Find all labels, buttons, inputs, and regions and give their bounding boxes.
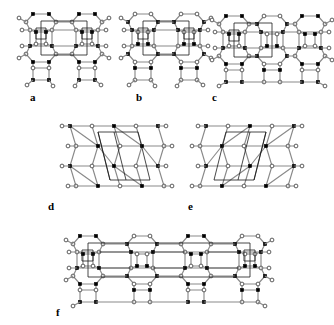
node-filled <box>313 32 316 35</box>
node-open <box>90 164 94 168</box>
panel-label-d: d <box>48 201 54 212</box>
node-open <box>77 66 81 70</box>
node-open <box>206 44 210 48</box>
node-open <box>195 60 199 64</box>
node-open <box>135 252 139 256</box>
node-open <box>104 44 108 48</box>
bond-edge <box>222 166 250 186</box>
node-open <box>64 278 68 282</box>
node-open <box>119 56 123 60</box>
node-open <box>226 164 230 168</box>
node-open <box>267 266 271 270</box>
node-open <box>242 184 246 188</box>
node-open <box>275 32 279 36</box>
node-filled <box>96 184 99 187</box>
node-filled <box>77 60 80 63</box>
node-open <box>263 304 267 308</box>
node-open <box>31 66 35 70</box>
bond-edge <box>114 166 142 186</box>
node-filled <box>300 14 303 17</box>
node-filled <box>265 44 268 47</box>
node-open <box>47 66 51 70</box>
node-open <box>278 62 282 66</box>
node-open <box>278 14 282 18</box>
bond-edge <box>136 146 142 166</box>
node-open <box>323 84 327 88</box>
node-filled <box>112 164 115 167</box>
node-open <box>107 16 111 20</box>
node-filled <box>31 12 34 15</box>
node-open <box>270 124 274 128</box>
node-open <box>80 42 84 46</box>
node-open <box>17 16 21 20</box>
bond-edge <box>92 146 98 166</box>
node-open <box>78 288 82 292</box>
panel-a-diagram <box>18 8 110 86</box>
bond-edge <box>158 166 164 186</box>
bond-edge <box>222 126 250 146</box>
node-filled <box>220 184 223 187</box>
node-open <box>327 30 331 34</box>
node-filled <box>135 264 138 267</box>
node-filled <box>78 234 81 237</box>
node-open <box>122 28 126 32</box>
node-filled <box>192 42 195 45</box>
unit-cell-outline <box>254 132 266 180</box>
node-filled <box>94 282 97 285</box>
bond-edge <box>114 126 142 146</box>
node-filled <box>96 144 99 147</box>
node-filled <box>264 144 267 147</box>
bond-edge <box>200 146 206 166</box>
node-open <box>133 12 137 16</box>
node-filled <box>316 62 319 65</box>
node-filled <box>186 234 189 237</box>
node-open <box>60 124 64 128</box>
node-filled <box>248 164 251 167</box>
node-open <box>127 83 131 87</box>
node-filled <box>146 42 149 45</box>
node-open <box>119 16 123 20</box>
node-filled <box>47 60 50 63</box>
node-open <box>201 83 205 87</box>
node-filled <box>94 234 97 237</box>
node-open <box>267 250 271 254</box>
node-open <box>210 18 214 22</box>
node-open <box>206 28 210 32</box>
node-filled <box>202 234 205 237</box>
node-filled <box>303 32 306 35</box>
node-open <box>17 56 21 60</box>
node-open <box>196 164 200 168</box>
node-open <box>60 164 64 168</box>
panel-label-b: b <box>136 92 142 103</box>
bond-edge <box>266 146 272 166</box>
unit-cell-outline <box>41 21 87 55</box>
node-open <box>104 28 108 32</box>
node-filled <box>275 44 278 47</box>
panel-label-c: c <box>212 92 217 103</box>
node-open <box>240 234 244 238</box>
node-filled <box>300 62 303 65</box>
node-open <box>51 84 55 88</box>
node-open <box>132 282 136 286</box>
panel-e <box>194 118 304 196</box>
node-open <box>94 288 98 292</box>
node-open <box>145 252 149 256</box>
node-filled <box>145 264 148 267</box>
node-open <box>34 42 38 46</box>
panel-b <box>120 8 212 86</box>
bond-edge <box>158 126 164 146</box>
node-open <box>240 282 244 286</box>
node-open <box>25 83 29 87</box>
node-open <box>237 44 241 48</box>
bond-edge <box>288 146 294 166</box>
unit-cell-outline <box>234 23 272 57</box>
node-open <box>270 238 274 242</box>
figure-canvas: a b c d e f <box>0 0 334 325</box>
node-filled <box>264 184 267 187</box>
node-open <box>118 144 122 148</box>
node-open <box>133 60 137 64</box>
node-open <box>170 184 174 188</box>
node-open <box>190 144 194 148</box>
node-open <box>107 56 111 60</box>
node-filled <box>148 288 151 291</box>
